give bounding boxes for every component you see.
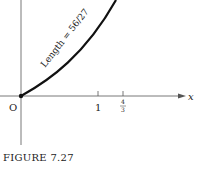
curve (21, 0, 116, 96)
figure-diagram: O 1 4 3 x Length = 56/27 (0, 0, 217, 193)
tick-label-4-3-den: 3 (121, 106, 125, 113)
x-axis-arrow-icon (178, 94, 186, 99)
curve-length-label: Length = 56/27 (39, 7, 91, 70)
tick-label-4-3-num: 4 (121, 98, 125, 105)
figure-caption: FIGURE 7.27 (3, 152, 74, 163)
tick-label-1: 1 (95, 102, 101, 113)
origin-label: O (9, 102, 17, 113)
x-axis-label: x (188, 91, 194, 102)
origin-point (19, 94, 23, 98)
